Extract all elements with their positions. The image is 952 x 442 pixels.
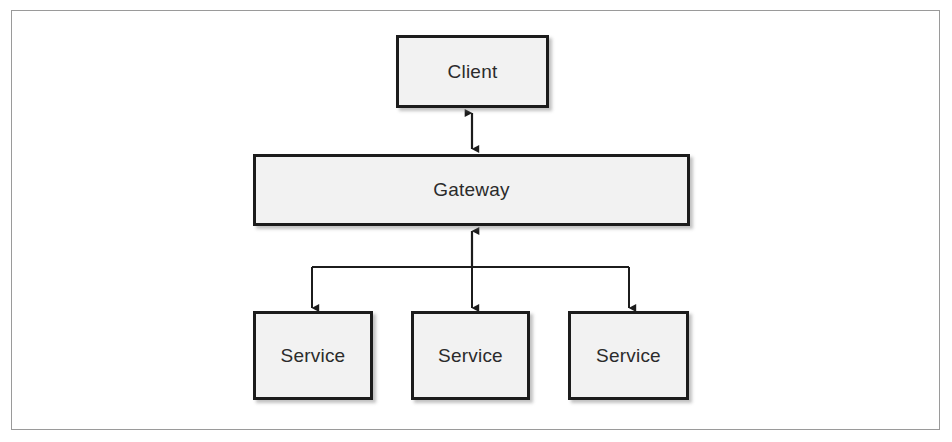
node-gateway-label: Gateway — [433, 179, 509, 201]
figure-root: Client Gateway Service Service Service — [0, 0, 952, 442]
node-client-label: Client — [448, 61, 498, 83]
node-gateway: Gateway — [253, 154, 690, 226]
node-client: Client — [396, 35, 549, 108]
node-service-2-label: Service — [438, 345, 503, 367]
node-service-2: Service — [411, 311, 530, 400]
node-service-3: Service — [568, 311, 689, 400]
node-service-3-label: Service — [596, 345, 661, 367]
node-service-1: Service — [253, 311, 373, 400]
node-service-1-label: Service — [281, 345, 346, 367]
